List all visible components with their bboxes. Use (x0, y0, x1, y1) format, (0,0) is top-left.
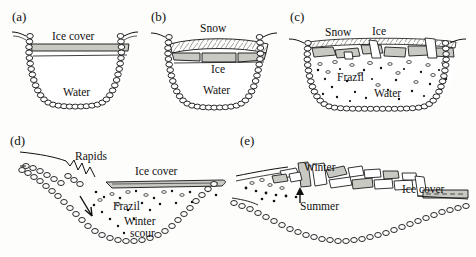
label-frazil-d: Frazil (113, 201, 140, 213)
label-ice-cover-e: Ice cover (402, 184, 444, 196)
label-ice-cover-a: Ice cover (52, 31, 94, 43)
panel-c-diagram (289, 38, 466, 111)
label-scour-d: scour (130, 228, 155, 240)
label-water-c: Water (374, 88, 401, 100)
label-frazil-c: Frazil (337, 72, 364, 84)
panel-tag-e: (e) (240, 134, 254, 147)
channel-bed-e (231, 201, 470, 244)
scour-arrow-d (80, 196, 92, 216)
label-rapids-d: Rapids (75, 151, 107, 163)
panel-tag-b: (b) (151, 10, 166, 23)
label-water-b: Water (203, 85, 230, 97)
ice-cover-band-a (31, 44, 129, 51)
ice-band-b (172, 53, 266, 62)
label-snow-b: Snow (200, 23, 226, 35)
panel-d-diagram (19, 152, 226, 244)
panel-e-diagram (231, 162, 470, 244)
label-ice-b: Ice (211, 64, 225, 76)
label-snow-c: Snow (325, 27, 351, 39)
panel-tag-c: (c) (290, 10, 304, 23)
panel-tag-a: (a) (12, 10, 26, 23)
label-summer-e: Summer (300, 201, 339, 213)
label-winter-d: Winter (124, 216, 155, 228)
label-water-a: Water (63, 87, 90, 99)
frazil-particles-e (245, 179, 298, 203)
label-ice-cover-d: Ice cover (135, 166, 177, 178)
panel-tag-d: (d) (10, 134, 25, 147)
label-ice-c: Ice (372, 26, 386, 38)
label-winter-e: Winter (304, 162, 335, 174)
